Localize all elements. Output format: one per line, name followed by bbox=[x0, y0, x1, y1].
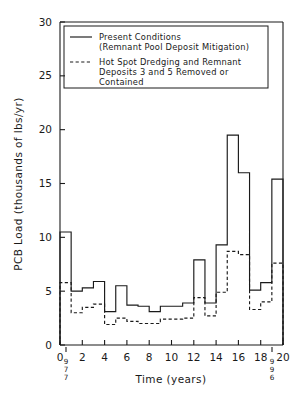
legend-label-hot-spot-line1: Hot Spot Dredging and Remnant bbox=[99, 57, 242, 67]
x-tick-label: 20 bbox=[276, 351, 289, 363]
x-tick-label: 12 bbox=[187, 351, 200, 363]
y-tick-label: 20 bbox=[39, 123, 52, 135]
legend-label-hot-spot-line3: Contained bbox=[99, 77, 144, 87]
x-tick-label: 4 bbox=[101, 351, 108, 363]
y-tick-label: 30 bbox=[39, 16, 52, 28]
y-tick-label: 10 bbox=[39, 231, 52, 243]
year-1996-d3: 6 bbox=[270, 373, 275, 382]
x-axis-title: Time (years) bbox=[135, 373, 207, 385]
y-axis-ticks: 051015202530 bbox=[39, 16, 65, 351]
x-tick-label: 6 bbox=[124, 351, 131, 363]
year-annotation-1996: 9 9 6 bbox=[270, 347, 275, 382]
legend-label-hot-spot-line2: Deposits 3 and 5 Removed or bbox=[99, 67, 229, 77]
y-tick-label: 25 bbox=[39, 69, 52, 81]
x-axis-ticks: 02468101214161820 bbox=[57, 340, 290, 363]
x-tick-label: 0 bbox=[57, 351, 64, 363]
series-present-conditions bbox=[60, 135, 283, 345]
x-tick-label: 14 bbox=[209, 351, 223, 363]
y-tick-label: 5 bbox=[45, 285, 52, 297]
x-tick-label: 10 bbox=[165, 351, 178, 363]
legend: Present Conditions (Remnant Pool Deposit… bbox=[64, 26, 268, 88]
y-tick-label: 0 bbox=[45, 339, 52, 351]
x-tick-label: 16 bbox=[232, 351, 246, 363]
y-axis-title: PCB Load (thousands of lbs/yr) bbox=[12, 97, 24, 270]
year-annotation-1977: 9 7 7 bbox=[64, 347, 69, 382]
year-1977-d3: 7 bbox=[64, 373, 69, 382]
x-tick-label: 2 bbox=[79, 351, 86, 363]
x-tick-label: 8 bbox=[146, 351, 153, 363]
pcb-load-step-chart: 051015202530 02468101214161820 Present C… bbox=[0, 0, 303, 405]
chart-figure: 051015202530 02468101214161820 Present C… bbox=[0, 0, 303, 405]
legend-label-present-conditions-line1: Present Conditions bbox=[99, 32, 181, 42]
y-tick-label: 15 bbox=[39, 177, 52, 189]
x-tick-label: 18 bbox=[254, 351, 267, 363]
legend-label-present-conditions-line2: (Remnant Pool Deposit Mitigation) bbox=[99, 42, 249, 52]
